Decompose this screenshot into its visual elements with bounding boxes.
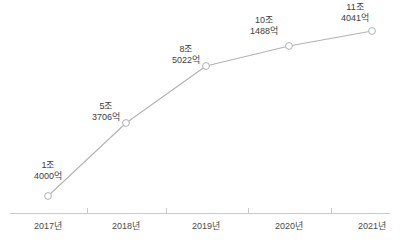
x-tick-label-2018년: 2018년 <box>86 221 166 232</box>
chart-plot-area <box>0 0 400 245</box>
data-point-marker-2018년 <box>123 120 130 127</box>
series-line <box>48 31 372 196</box>
x-tick-label-2017년: 2017년 <box>8 221 88 232</box>
x-tick-label-2019년: 2019년 <box>166 221 246 232</box>
line-chart: 1조4000억5조3706억8조5022억10조1488억11조4041억 20… <box>0 0 400 245</box>
axis-group <box>10 208 390 213</box>
data-point-marker-2019년 <box>203 63 210 70</box>
data-point-marker-2020년 <box>286 43 293 50</box>
x-tick-label-2020년: 2020년 <box>249 221 329 232</box>
series-markers <box>45 28 376 200</box>
x-axis-ticks <box>87 208 331 213</box>
data-point-marker-2021년 <box>369 28 376 35</box>
x-tick-label-2021년: 2021년 <box>332 221 400 232</box>
data-point-marker-2017년 <box>45 193 52 200</box>
